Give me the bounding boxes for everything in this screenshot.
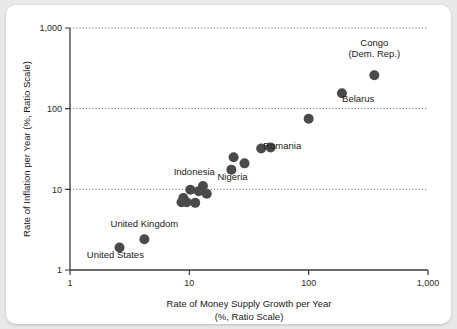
data-point-9: [202, 189, 212, 199]
point-label-indonesia: Indonesia: [174, 166, 216, 177]
point-label-congo: Congo: [360, 37, 388, 48]
x-tick-label-10: 10: [184, 278, 194, 288]
y-tick-label-1000: 1,000: [39, 23, 62, 33]
axis-spines: [70, 28, 428, 270]
point-label-nigeria: Nigeria: [217, 171, 248, 182]
x-axis-ticks: 1101001,000: [67, 270, 439, 288]
scatter-plot-figure: 1101001,000 1101001,000 Congo(Dem. Rep.)…: [6, 5, 451, 324]
point-label-united-kingdom: United Kingdom: [111, 218, 179, 229]
point-label-belarus: Belarus: [342, 93, 374, 104]
data-point-15: [304, 114, 314, 124]
point-labels-group: Congo(Dem. Rep.)BelarusRomaniaNigeriaInd…: [87, 37, 400, 260]
x-tick-label-100: 100: [301, 278, 316, 288]
x-axis-title: Rate of Money Supply Growth per Year: [167, 298, 332, 309]
data-point-11: [229, 152, 239, 162]
y-tick-label-100: 100: [47, 104, 62, 114]
point-label-romania: Romania: [263, 140, 302, 151]
point-label-united-states: United States: [87, 249, 144, 260]
y-tick-label-1: 1: [57, 265, 62, 275]
data-point-12: [240, 158, 250, 168]
chart-card: 1101001,000 1101001,000 Congo(Dem. Rep.)…: [6, 5, 451, 324]
point-label-dem-rep: (Dem. Rep.): [348, 48, 400, 59]
data-point-4: [182, 197, 192, 207]
x-tick-label-1000: 1,000: [417, 278, 440, 288]
x-axis-subtitle: (%, Ratio Scale): [215, 311, 284, 322]
data-point-17: [369, 70, 379, 80]
data-point-1: [139, 234, 149, 244]
data-point-6: [190, 198, 200, 208]
y-axis-ticks: 1101001,000: [39, 23, 70, 275]
x-tick-label-1: 1: [67, 278, 72, 288]
y-tick-label-10: 10: [52, 185, 62, 195]
y-axis-title: Rate of Inflation per Year (%, Ratio Sca…: [21, 61, 32, 237]
data-point-5: [185, 185, 195, 195]
